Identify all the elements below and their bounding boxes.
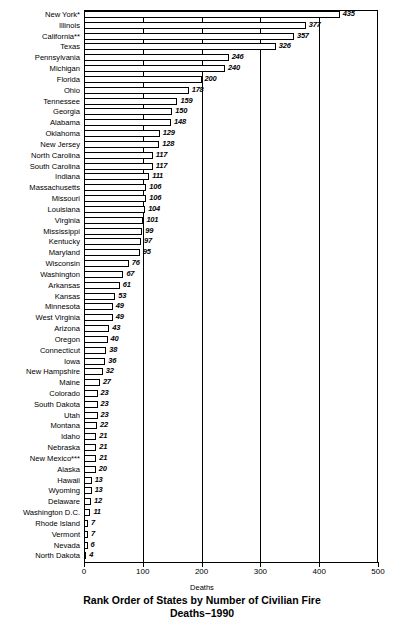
state-label: Alabama — [0, 118, 82, 129]
bar-value-label: 377 — [309, 20, 321, 30]
bar — [84, 249, 140, 256]
x-tick-label-300: 300 — [254, 567, 267, 576]
bar — [84, 108, 172, 115]
bar-row: 178 — [84, 86, 378, 97]
state-label: Massachusetts — [0, 183, 82, 194]
bar-value-label: 49 — [116, 312, 124, 322]
bar-value-label: 357 — [297, 31, 309, 41]
state-label: Louisiana — [0, 205, 82, 216]
state-label: Wyoming — [0, 486, 82, 497]
x-tick-label-500: 500 — [371, 567, 384, 576]
state-label: New Hampshire — [0, 367, 82, 378]
bar-value-label: 129 — [163, 128, 175, 138]
bar-row: 53 — [84, 292, 378, 303]
bar-value-label: 67 — [126, 269, 134, 279]
bar-value-label: 11 — [93, 507, 100, 517]
bar-value-label: 150 — [175, 106, 187, 116]
bar-value-label: 49 — [116, 301, 124, 311]
x-tick-label-200: 200 — [195, 567, 208, 576]
x-tick-label-0: 0 — [82, 567, 86, 576]
bar — [84, 433, 96, 440]
bar-row: 36 — [84, 357, 378, 368]
state-label: Texas — [0, 42, 82, 53]
bar-row: 11 — [84, 508, 378, 519]
state-label: Kansas — [0, 292, 82, 303]
state-label: Minnesota — [0, 302, 82, 313]
state-label: Idaho — [0, 432, 82, 443]
bar — [84, 217, 143, 224]
bar-value-label: 36 — [108, 356, 116, 366]
state-label: Florida — [0, 75, 82, 86]
x-tick-label-400: 400 — [313, 567, 326, 576]
bar — [84, 455, 96, 462]
bar-value-label: 178 — [192, 85, 204, 95]
bar-value-label: 22 — [100, 420, 108, 430]
bar-value-label: 13 — [95, 475, 103, 485]
state-label: New Jersey — [0, 140, 82, 151]
bar — [84, 412, 98, 419]
bar-value-label: 61 — [123, 280, 131, 290]
bar — [84, 401, 98, 408]
bar — [84, 422, 97, 429]
bar-value-label: 12 — [94, 496, 102, 506]
bar-value-label: 40 — [111, 334, 119, 344]
bar-value-label: 111 — [152, 171, 163, 181]
bar — [84, 347, 106, 354]
bar-value-label: 32 — [106, 366, 114, 376]
bar-value-label: 99 — [145, 226, 153, 236]
bar-row: 7 — [84, 519, 378, 530]
state-label: North Dakota — [0, 551, 82, 562]
state-label: Connecticut — [0, 346, 82, 357]
bar-row: 6 — [84, 541, 378, 552]
bar — [84, 282, 120, 289]
bar — [84, 87, 189, 94]
bar — [84, 390, 98, 397]
bar — [84, 195, 146, 202]
state-label: Washington — [0, 270, 82, 281]
bar-value-label: 159 — [180, 96, 192, 106]
bar-value-label: 435 — [343, 9, 355, 19]
bar-value-label: 200 — [205, 74, 217, 84]
bar-row: 21 — [84, 432, 378, 443]
bar-value-label: 101 — [146, 215, 158, 225]
bar — [84, 314, 113, 321]
bar-row: 13 — [84, 476, 378, 487]
bar-value-label: 38 — [109, 345, 117, 355]
bar-row: 49 — [84, 302, 378, 313]
bar-value-label: 21 — [99, 442, 107, 452]
bar-value-label: 148 — [174, 117, 186, 127]
bar — [84, 76, 202, 83]
state-label: Georgia — [0, 107, 82, 118]
x-axis: 0100200300400500 — [84, 563, 379, 579]
bar-value-label: 4 — [89, 550, 93, 560]
bar — [84, 368, 103, 375]
state-label: West Virginia — [0, 313, 82, 324]
state-label: Maryland — [0, 248, 82, 259]
x-tick-label-100: 100 — [136, 567, 149, 576]
fire-deaths-bar-chart: New York*IllinoisCalifornia**TexasPennsy… — [0, 0, 404, 626]
bar-row: 106 — [84, 183, 378, 194]
state-label: Michigan — [0, 64, 82, 75]
bar-row: 21 — [84, 443, 378, 454]
bar-row: 32 — [84, 367, 378, 378]
bar-value-label: 117 — [156, 161, 167, 171]
bar-row: 99 — [84, 227, 378, 238]
bar-row: 240 — [84, 64, 378, 75]
state-label: New Mexico*** — [0, 454, 82, 465]
bar — [84, 531, 88, 538]
bar-row: 23 — [84, 400, 378, 411]
bar-value-label: 6 — [91, 540, 95, 550]
bar-row: 117 — [84, 162, 378, 173]
state-label: Oklahoma — [0, 129, 82, 140]
bar — [84, 477, 92, 484]
bar-value-label: 21 — [99, 431, 107, 441]
bar — [84, 509, 90, 516]
bar — [84, 22, 306, 29]
bar-row: 159 — [84, 97, 378, 108]
state-label: Mississippi — [0, 227, 82, 238]
bar-row: 200 — [84, 75, 378, 86]
state-label: Washington D.C. — [0, 508, 82, 519]
state-label: Missouri — [0, 194, 82, 205]
bar — [84, 11, 340, 18]
bar-value-label: 106 — [149, 182, 161, 192]
